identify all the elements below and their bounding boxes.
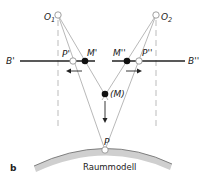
label-P-dprime: P'' <box>142 48 152 58</box>
point-M <box>102 91 109 98</box>
arrow-down-icon <box>103 101 108 123</box>
point-P <box>102 147 108 153</box>
label-P: P <box>104 137 110 147</box>
point-O2 <box>153 12 159 18</box>
point-P-dprime <box>136 58 142 64</box>
projection-rays <box>58 15 156 150</box>
label-M-prime: M' <box>87 48 97 58</box>
label-M-dprime: M'' <box>113 48 126 58</box>
label-M: (M) <box>110 89 125 99</box>
point-P-prime <box>70 58 76 64</box>
surface-label: Raummodell <box>83 162 136 172</box>
point-O1 <box>55 12 61 18</box>
point-M-dprime <box>124 58 131 65</box>
stereo-diagram: O1 O2 B' B'' P' M' M'' P'' (M) P Raummod… <box>0 0 207 181</box>
point-M-prime <box>82 58 89 65</box>
panel-label: b <box>10 163 17 173</box>
arrow-left-icon <box>66 69 82 74</box>
label-O1: O1 <box>44 12 55 24</box>
label-B-prime: B' <box>6 56 15 66</box>
label-P-prime: P' <box>62 49 70 59</box>
label-O2: O2 <box>161 12 172 24</box>
label-B-dprime: B'' <box>188 56 199 66</box>
